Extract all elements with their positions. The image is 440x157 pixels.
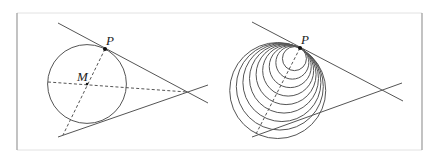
lower-tangent-line — [58, 85, 208, 137]
label-p: P — [300, 32, 309, 47]
diagram-canvas: PM P — [0, 0, 440, 157]
tangent-circle-6 — [249, 44, 318, 113]
lower-line — [252, 83, 402, 137]
right-figure-circle-family: P — [230, 22, 403, 139]
upper-tangent-line — [58, 23, 208, 103]
angle-bisector-dashed-line — [48, 82, 187, 92]
label-p: P — [105, 33, 114, 48]
upper-tangent-line — [252, 22, 403, 101]
left-figure-single-circle: PM — [48, 23, 208, 137]
label-m: M — [76, 69, 89, 84]
